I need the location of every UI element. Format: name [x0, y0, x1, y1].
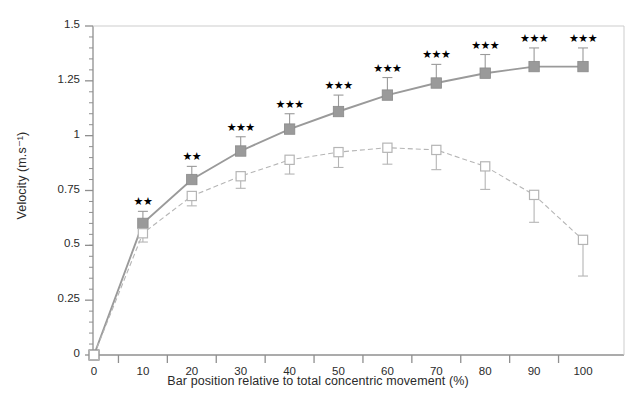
data-point-filled-square [480, 68, 490, 78]
figure-root: Velocity (m.s⁻¹) Bar position relative t… [0, 0, 636, 407]
y-tick-label: 0.25 [18, 292, 80, 304]
data-point-open-square [138, 229, 147, 238]
data-point-open-square [89, 350, 98, 359]
y-tick-label: 1.5 [18, 18, 80, 30]
data-point-filled-square [333, 106, 343, 116]
significance-marker: ★★★ [509, 32, 559, 45]
data-point-filled-square [187, 174, 197, 184]
data-point-open-square [578, 235, 587, 244]
x-tick-label: 0 [72, 365, 116, 377]
data-point-filled-square [529, 61, 539, 71]
y-tick-label: 0 [18, 347, 80, 359]
significance-marker: ★★★ [558, 32, 608, 45]
x-tick-label: 90 [512, 365, 556, 377]
data-point-open-square [432, 145, 441, 154]
x-tick-label: 80 [463, 365, 507, 377]
significance-marker: ★★ [167, 150, 217, 163]
data-point-open-square [334, 148, 343, 157]
data-point-filled-square [138, 218, 148, 228]
data-point-filled-square [284, 124, 294, 134]
significance-marker: ★★★ [314, 79, 364, 92]
data-point-filled-square [578, 61, 588, 71]
y-tick-label: 1 [18, 128, 80, 140]
series-line-open-square-series [94, 148, 583, 355]
x-tick-label: 60 [365, 365, 409, 377]
significance-marker: ★★★ [265, 98, 315, 111]
x-tick-label: 50 [317, 365, 361, 377]
data-point-open-square [187, 191, 196, 200]
chart-canvas [0, 0, 636, 407]
x-tick-label: 70 [414, 365, 458, 377]
data-point-open-square [285, 155, 294, 164]
significance-marker: ★★★ [362, 62, 412, 75]
x-tick-label: 30 [219, 365, 263, 377]
y-tick-label: 0.75 [18, 183, 80, 195]
significance-marker: ★★★ [216, 121, 266, 134]
significance-marker: ★★ [118, 195, 168, 208]
x-tick-label: 40 [268, 365, 312, 377]
data-point-open-square [481, 162, 490, 171]
data-point-filled-square [382, 90, 392, 100]
y-tick-label: 1.25 [18, 73, 80, 85]
x-tick-label: 100 [561, 365, 605, 377]
significance-marker: ★★★ [411, 48, 461, 61]
significance-marker: ★★★ [460, 39, 510, 52]
data-point-filled-square [236, 146, 246, 156]
data-point-filled-square [431, 78, 441, 88]
data-point-open-square [236, 172, 245, 181]
data-point-open-square [530, 190, 539, 199]
y-tick-label: 0.5 [18, 237, 80, 249]
caption-fragment [0, 396, 636, 407]
x-tick-label: 20 [170, 365, 214, 377]
x-tick-label: 10 [121, 365, 165, 377]
data-point-open-square [383, 143, 392, 152]
